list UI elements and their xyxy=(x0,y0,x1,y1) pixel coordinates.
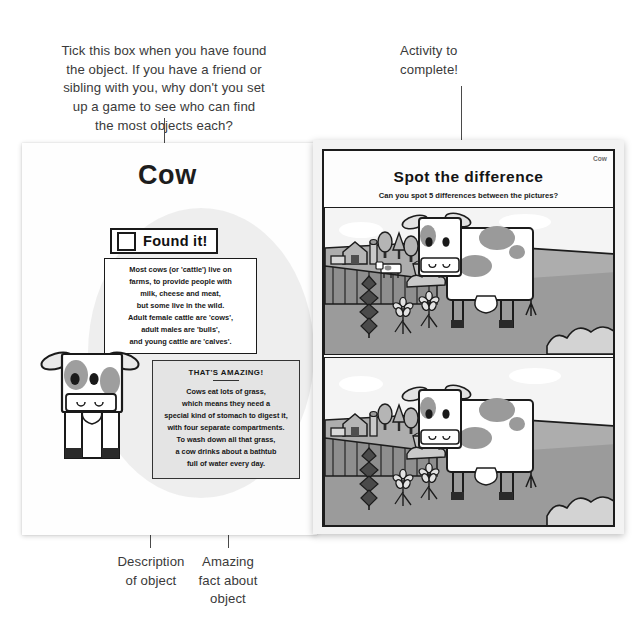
description-line: farms, to provide people with xyxy=(109,276,252,288)
callout-line: Activity to xyxy=(400,42,540,61)
description-line: Adult female cattle are 'cows', xyxy=(109,312,252,324)
description-line: adult males are 'bulls', xyxy=(109,324,252,336)
spot-difference-panel-bottom[interactable] xyxy=(324,357,615,527)
activity-subtitle: Can you spot 5 differences between the p… xyxy=(324,191,613,200)
annotated-book-spread: Tick this box when you have found the ob… xyxy=(0,0,638,619)
description-line: but some live in the wild. xyxy=(109,300,252,312)
cow-front-illustration xyxy=(38,344,150,466)
callout-line: complete! xyxy=(400,61,540,80)
page-title: Cow xyxy=(138,160,197,191)
callout-description: Description of object xyxy=(105,553,197,590)
callout-line: the object. If you have a friend or xyxy=(14,61,314,80)
amazing-fact-heading: THAT'S AMAZING! xyxy=(158,368,294,377)
callout-line: Tick this box when you have found xyxy=(14,42,314,61)
amazing-fact-line: Cows eat lots of grass, xyxy=(158,386,294,398)
activity-corner-label: Cow xyxy=(593,155,607,162)
amazing-fact-line: full of water every day. xyxy=(158,458,294,470)
leader-line-activity xyxy=(461,86,462,146)
activity-sheet: Cow Spot the difference Can you spot 5 d… xyxy=(322,149,615,527)
silo-icon xyxy=(370,240,377,265)
spot-difference-panel-top[interactable] xyxy=(324,207,615,355)
amazing-fact-line: special kind of stomach to digest it, xyxy=(158,410,294,422)
activity-title: Spot the difference xyxy=(324,168,613,186)
callout-line: object xyxy=(186,590,270,609)
description-box: Most cows (or 'cattle') live on farms, t… xyxy=(104,258,257,354)
found-it-tickbox[interactable] xyxy=(117,232,136,251)
amazing-fact-line: To wash down all that grass, xyxy=(158,434,294,446)
callout-line: up a game to see who can find xyxy=(14,98,314,117)
callout-line: sibling with you, why don't you set xyxy=(14,79,314,98)
callout-activity: Activity to complete! xyxy=(400,42,540,79)
callout-line: of object xyxy=(105,572,197,591)
amazing-fact-box: THAT'S AMAZING! Cows eat lots of grass, … xyxy=(152,360,300,479)
callout-line: Description xyxy=(105,553,197,572)
found-it-label: Found it! xyxy=(143,233,208,249)
amazing-fact-line: which means they need a xyxy=(158,398,294,410)
callout-line: Amazing xyxy=(186,553,270,572)
description-line: Most cows (or 'cattle') live on xyxy=(109,264,252,276)
found-it-checkbox-row[interactable]: Found it! xyxy=(110,228,218,254)
amazing-fact-divider xyxy=(213,380,239,381)
silo-icon xyxy=(370,412,377,437)
callout-amazing-fact: Amazing fact about object xyxy=(186,553,270,609)
description-line: milk, cheese and meat, xyxy=(109,288,252,300)
callout-line: fact about xyxy=(186,572,270,591)
amazing-fact-line: a cow drinks about a bathtub xyxy=(158,446,294,458)
amazing-fact-line: with four separate compartments. xyxy=(158,422,294,434)
